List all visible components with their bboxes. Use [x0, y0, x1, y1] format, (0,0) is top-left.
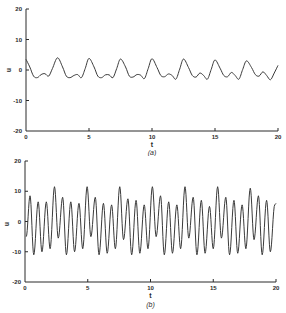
y-tick-label: 20 — [15, 6, 22, 12]
x-tick-label: 5 — [86, 285, 90, 291]
x-tick-label: 20 — [275, 134, 282, 140]
y-axis-label: u — [3, 222, 10, 226]
x-axis-label: t — [151, 141, 154, 148]
x-tick-label: 0 — [23, 285, 27, 291]
y-axis-a: 20 10 0 -10 -20 u — [5, 6, 29, 134]
series-line-b — [26, 187, 276, 255]
y-tick-label: -10 — [12, 249, 21, 255]
y-axis-b: 20 10 0 -10 -20 u — [3, 158, 28, 285]
x-tick-label: 15 — [210, 285, 217, 291]
chart-b-canvas: 20 10 0 -10 -20 u 0 5 10 15 20 t (b) — [0, 156, 286, 313]
x-tick-label: 15 — [212, 134, 219, 140]
y-axis-label: u — [5, 68, 12, 72]
y-tick-label: 20 — [14, 158, 21, 164]
x-tick-label: 10 — [149, 134, 156, 140]
x-axis-b: 0 5 10 15 20 t (b) — [23, 279, 280, 309]
chart-panel-a: 20 10 0 -10 -20 u 0 5 10 15 20 t (a) — [0, 0, 286, 156]
y-tick-label: -20 — [13, 128, 22, 134]
x-axis-a: 0 5 10 15 20 t (a) — [24, 128, 282, 156]
x-tick-label: 0 — [24, 134, 28, 140]
x-tick-label: 10 — [147, 285, 154, 291]
chart-a-canvas: 20 10 0 -10 -20 u 0 5 10 15 20 t (a) — [0, 0, 286, 156]
y-tick-label: 10 — [14, 188, 21, 194]
x-tick-label: 5 — [87, 134, 91, 140]
y-tick-label: 0 — [18, 219, 22, 225]
y-tick-label: -20 — [12, 279, 21, 285]
panel-caption: (b) — [146, 301, 155, 309]
x-tick-label: 20 — [273, 285, 280, 291]
x-axis-label: t — [149, 292, 152, 299]
y-tick-label: 0 — [19, 67, 23, 73]
chart-panel-b: 20 10 0 -10 -20 u 0 5 10 15 20 t (b) — [0, 156, 286, 313]
y-tick-label: 10 — [15, 37, 22, 43]
panel-caption: (a) — [148, 149, 157, 156]
series-line-a — [26, 58, 278, 80]
y-tick-label: -10 — [13, 98, 22, 104]
